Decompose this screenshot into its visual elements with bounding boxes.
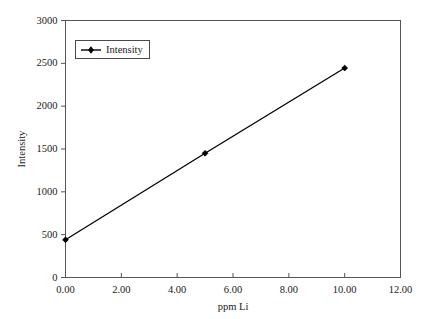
x-tick-label: 8.00 xyxy=(280,285,298,296)
y-tick-label: 1000 xyxy=(37,187,58,198)
x-tick-label: 2.00 xyxy=(112,285,130,296)
plot-canvas xyxy=(0,0,434,319)
x-tick-label: 4.00 xyxy=(168,285,186,296)
x-tick-label: 0.00 xyxy=(56,285,74,296)
y-tick-label: 2000 xyxy=(37,101,58,112)
x-tick-label: 6.00 xyxy=(224,285,242,296)
x-axis-title: ppm Li xyxy=(218,301,249,312)
chart-figure: 050010001500200025003000 0.002.004.006.0… xyxy=(0,0,434,319)
axes-frame xyxy=(66,21,401,278)
y-tick-label: 0 xyxy=(52,272,57,283)
legend: Intensity xyxy=(75,40,150,59)
axis-ticks xyxy=(61,21,345,278)
x-tick-label: 12.00 xyxy=(389,285,413,296)
y-tick-label: 1500 xyxy=(37,144,58,155)
legend-marker-icon xyxy=(80,44,102,56)
y-tick-label: 3000 xyxy=(37,15,58,26)
legend-label-intensity: Intensity xyxy=(106,44,143,55)
x-tick-label: 10.00 xyxy=(333,285,357,296)
y-tick-label: 500 xyxy=(42,229,58,240)
y-tick-label: 2500 xyxy=(37,58,58,69)
y-axis-title: Intensity xyxy=(16,131,27,168)
